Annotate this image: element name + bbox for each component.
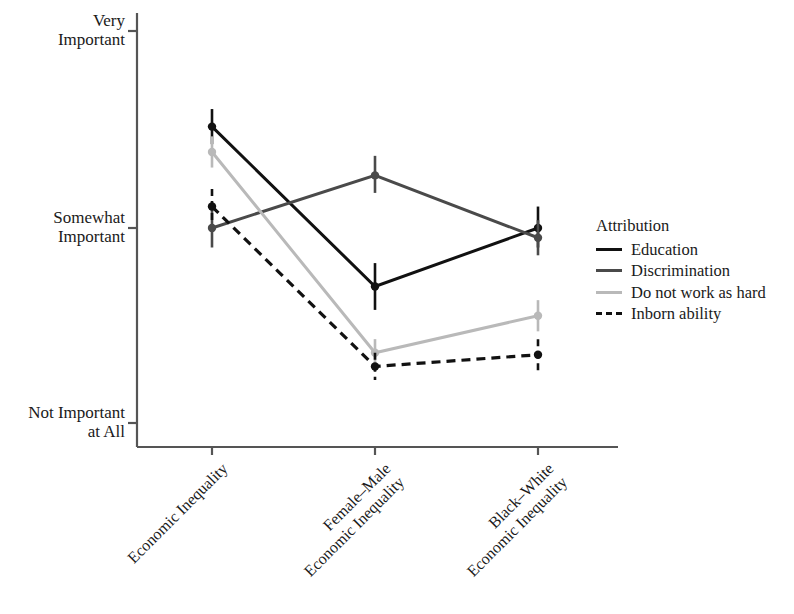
legend-item-do-not-work-as-hard[interactable]: Do not work as hard bbox=[596, 282, 766, 304]
tick-label-line: Not Important bbox=[28, 403, 125, 422]
y-tick-label-1: SomewhatImportant bbox=[53, 208, 125, 246]
legend-item-label: Do not work as hard bbox=[631, 282, 766, 304]
legend-item-education[interactable]: Education bbox=[596, 239, 766, 261]
chart-series bbox=[208, 109, 542, 380]
tick-label-line: Important bbox=[58, 30, 125, 49]
chart-axes bbox=[128, 13, 618, 455]
tick-label-line: at All bbox=[28, 422, 125, 441]
legend-item-label: Inborn ability bbox=[631, 303, 721, 325]
tick-label-line: Important bbox=[53, 227, 125, 246]
tick-label-line: Somewhat bbox=[53, 208, 125, 227]
legend: Attribution EducationDiscriminationDo no… bbox=[596, 215, 766, 325]
legend-entries: EducationDiscriminationDo not work as ha… bbox=[596, 239, 766, 325]
legend-item-label: Education bbox=[631, 239, 698, 261]
tick-label-line: Very bbox=[58, 11, 125, 30]
legend-item-discrimination[interactable]: Discrimination bbox=[596, 260, 766, 282]
y-tick-label-2: Not Importantat All bbox=[28, 403, 125, 441]
y-tick-label-0: VeryImportant bbox=[58, 11, 125, 49]
legend-title: Attribution bbox=[596, 215, 766, 237]
legend-item-inborn-ability[interactable]: Inborn ability bbox=[596, 303, 766, 325]
legend-item-label: Discrimination bbox=[631, 260, 730, 282]
